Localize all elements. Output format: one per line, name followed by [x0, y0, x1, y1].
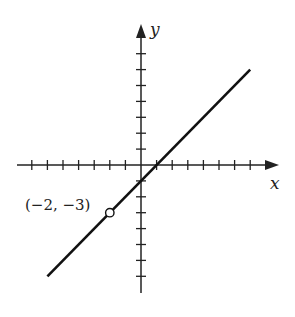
coordinate-plane: y x (−2, −3)	[0, 0, 295, 317]
line-y-equals-x-minus-1	[47, 70, 250, 277]
open-circle-point	[106, 209, 114, 217]
x-axis-arrow-icon	[265, 160, 279, 170]
y-axis-label: y	[149, 19, 160, 39]
y-axis-arrow-icon	[136, 24, 146, 38]
point-label: (−2, −3)	[25, 196, 90, 214]
x-axis-label: x	[270, 173, 280, 193]
